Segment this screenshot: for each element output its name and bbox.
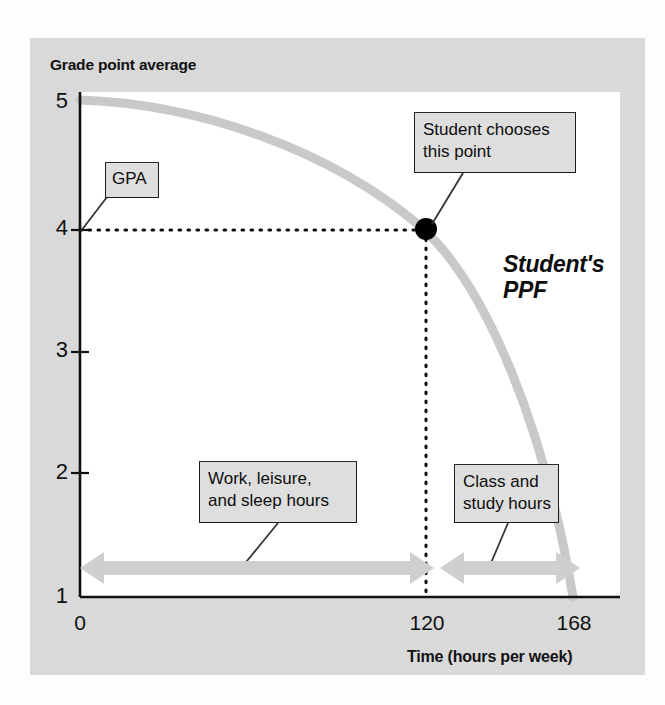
y-tick-label-1: 1 bbox=[42, 585, 68, 607]
x-axis-title: Time (hours per week) bbox=[407, 648, 572, 666]
gpa-callout: GPA bbox=[105, 162, 159, 198]
y-tick-label-5: 5 bbox=[42, 90, 68, 112]
class-study-arrow bbox=[440, 552, 580, 584]
y-tick-label-3: 3 bbox=[42, 339, 68, 361]
work-leisure-sleep-arrow bbox=[80, 552, 434, 584]
student-chooses-callout: Student chooses this point bbox=[414, 112, 576, 173]
ppf-curve-label: Student's PPF bbox=[503, 252, 604, 304]
chart-canvas bbox=[0, 0, 665, 705]
work-leader-line bbox=[242, 523, 278, 567]
x-tick-label-0: 0 bbox=[66, 612, 94, 633]
gpa-leader-line bbox=[81, 197, 107, 231]
y-tick-label-2: 2 bbox=[42, 461, 68, 483]
y-axis-title: Grade point average bbox=[50, 56, 196, 74]
x-tick-label-168: 168 bbox=[546, 612, 602, 633]
x-tick-label-120: 120 bbox=[399, 612, 455, 633]
chooses-leader-line bbox=[432, 173, 463, 224]
work-leisure-sleep-callout: Work, leisure, and sleep hours bbox=[199, 461, 357, 523]
class-study-callout: Class and study hours bbox=[454, 464, 559, 523]
y-tick-label-4: 4 bbox=[42, 217, 68, 239]
ppf-figure: Grade point average 5 4 3 2 1 0 120 168 … bbox=[0, 0, 665, 705]
